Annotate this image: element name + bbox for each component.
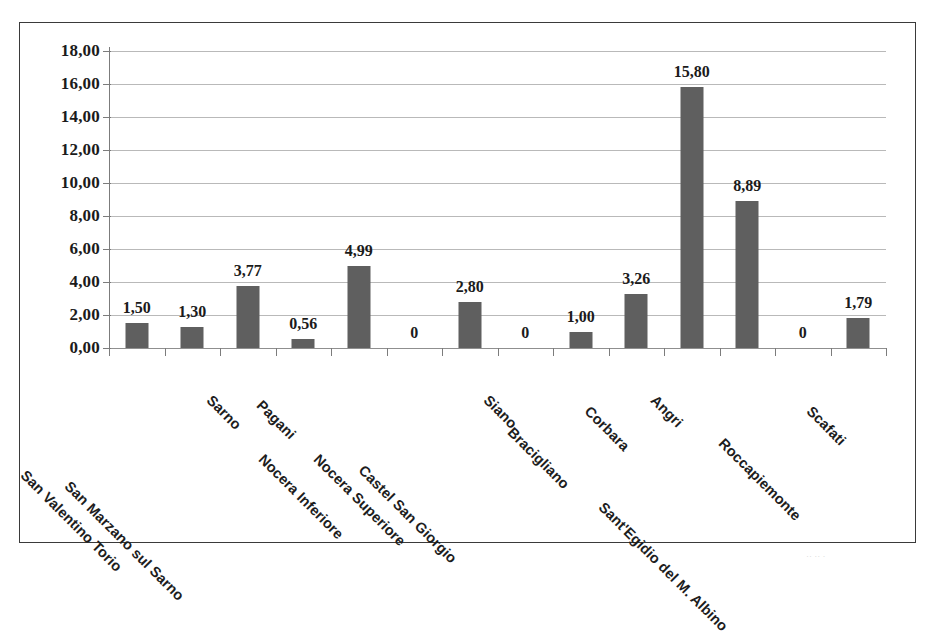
bar-group[interactable]: 1,30 (165, 51, 221, 348)
x-axis-tick-mark (775, 348, 776, 356)
y-axis-tick-label: 6,00 (69, 239, 100, 259)
y-axis-tick-mark (103, 216, 111, 217)
x-axis-tick-mark (553, 348, 554, 356)
bar-group[interactable]: 8,89 (720, 51, 776, 348)
bar-value-label: 1,50 (123, 299, 151, 317)
x-axis-tick-mark (165, 348, 166, 356)
y-axis-tick-mark (103, 282, 111, 283)
bar-value-label: 0 (521, 324, 529, 342)
bar-value-label: 3,77 (234, 262, 262, 280)
bar-group[interactable]: 0 (775, 51, 831, 348)
plot-area: 1,501,303,770,564,9902,8001,003,2615,808… (109, 51, 886, 348)
bar[interactable] (458, 302, 481, 348)
bar-value-label: 8,89 (733, 177, 761, 195)
x-axis-category-label: Sant'Egidio del M. Albino (596, 499, 731, 634)
bar-group[interactable]: 2,80 (442, 51, 498, 348)
x-axis-category-label: Scafati (803, 403, 848, 448)
x-axis-tick-mark (387, 348, 388, 356)
x-axis-tick-mark (220, 348, 221, 356)
bar-group[interactable]: 3,77 (220, 51, 276, 348)
bar[interactable] (680, 87, 703, 348)
x-axis-category-label: Angri (648, 392, 686, 430)
y-axis-tick-label: 10,00 (61, 173, 100, 193)
bar-value-label: 1,79 (844, 294, 872, 312)
x-axis-tick-mark (886, 348, 887, 356)
chart-frame: 18,0016,0014,0012,0010,008,006,004,002,0… (19, 22, 916, 543)
y-axis-tick-label: 0,00 (69, 338, 100, 358)
x-axis-tick-mark (664, 348, 665, 356)
y-axis-tick-label: 4,00 (69, 272, 100, 292)
bar-value-label: 1,00 (567, 308, 595, 326)
x-axis-category-label: Pagani (254, 397, 299, 442)
bar[interactable] (236, 286, 259, 348)
y-axis-tick-mark (103, 315, 111, 316)
y-axis-tick-label: 14,00 (61, 107, 100, 127)
bar-group[interactable]: 4,99 (331, 51, 387, 348)
bar-value-label: 3,26 (622, 270, 650, 288)
y-axis-tick-label: 16,00 (61, 74, 100, 94)
bar[interactable] (125, 323, 148, 348)
y-axis-tick-mark (103, 51, 111, 52)
y-axis-tick-mark (103, 150, 111, 151)
x-axis-category-labels: San Valentino TorioSan Marzano sul Sarno… (109, 361, 886, 536)
bar-value-label: 15,80 (674, 63, 710, 81)
bar-value-label: 1,30 (178, 303, 206, 321)
x-axis-category-label: Bracigliano (504, 424, 572, 492)
x-axis-category-label: Corbara (581, 403, 632, 454)
y-axis-tick-labels: 18,0016,0014,0012,0010,008,006,004,002,0… (20, 51, 100, 348)
bar[interactable] (292, 339, 315, 348)
x-axis-tick-mark (109, 348, 110, 356)
y-axis-tick-mark (103, 117, 111, 118)
bar-value-label: 0,56 (289, 315, 317, 333)
bar-group[interactable]: 1,00 (553, 51, 609, 348)
bar-value-label: 2,80 (456, 278, 484, 296)
x-axis-tick-mark (276, 348, 277, 356)
bar[interactable] (847, 318, 870, 348)
y-axis-tick-label: 8,00 (69, 206, 100, 226)
bar[interactable] (736, 201, 759, 348)
bar-value-label: 4,99 (345, 242, 373, 260)
bar-value-label: 0 (410, 324, 418, 342)
y-axis-tick-mark (103, 249, 111, 250)
bar-group[interactable]: 0 (498, 51, 554, 348)
bar-group[interactable]: 3,26 (609, 51, 665, 348)
bar[interactable] (569, 332, 592, 349)
x-axis-tick-mark (331, 348, 332, 356)
x-axis-ticks (109, 348, 886, 358)
bar-group[interactable]: 15,80 (664, 51, 720, 348)
x-axis-tick-mark (442, 348, 443, 356)
bar-group[interactable]: 0 (387, 51, 443, 348)
y-axis-tick-mark (103, 84, 111, 85)
y-axis-tick-label: 18,00 (61, 41, 100, 61)
x-axis-category-label: Sarno (204, 392, 245, 433)
x-axis-tick-mark (720, 348, 721, 356)
y-axis-tick-mark (103, 183, 111, 184)
scan-artifact: ·· ·· · (806, 551, 826, 561)
bar-group[interactable]: 1,79 (831, 51, 887, 348)
y-axis-tick-label: 12,00 (61, 140, 100, 160)
x-axis-tick-mark (609, 348, 610, 356)
x-axis-tick-mark (498, 348, 499, 356)
bar-group[interactable]: 1,50 (109, 51, 165, 348)
y-axis-tick-label: 2,00 (69, 305, 100, 325)
bar[interactable] (625, 294, 648, 348)
y-axis-tick-mark (103, 348, 111, 349)
bar-value-label: 0 (799, 324, 807, 342)
bar[interactable] (347, 266, 370, 348)
bar[interactable] (181, 327, 204, 348)
x-axis-category-label: Roccapiemonte (716, 435, 805, 524)
bar-group[interactable]: 0,56 (276, 51, 332, 348)
x-axis-tick-mark (831, 348, 832, 356)
